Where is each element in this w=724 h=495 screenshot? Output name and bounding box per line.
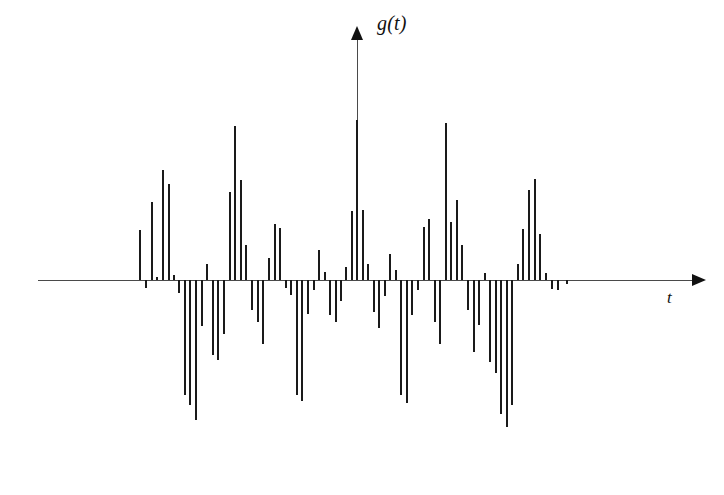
stem-26 [285, 280, 286, 288]
stem-0 [139, 230, 141, 280]
stem-34 [329, 280, 331, 315]
stem-30 [307, 280, 309, 314]
stem-52 [428, 219, 430, 280]
stem-series [0, 0, 724, 495]
stem-8 [184, 280, 186, 395]
stem-17 [234, 126, 236, 280]
stem-39 [356, 120, 358, 280]
stem-71 [534, 179, 536, 280]
stem-72 [539, 234, 541, 280]
stem-53 [434, 280, 436, 322]
stem-47 [400, 280, 402, 395]
stem-61 [478, 280, 480, 325]
stem-23 [268, 258, 270, 280]
stem-7 [178, 280, 180, 293]
stem-3 [156, 277, 157, 280]
stem-10 [195, 280, 197, 420]
stem-55 [445, 123, 447, 280]
stem-64 [495, 280, 497, 373]
stem-27 [290, 280, 292, 295]
stem-75 [557, 280, 559, 290]
stem-54 [439, 280, 441, 344]
stem-21 [257, 280, 259, 322]
stem-37 [345, 267, 346, 280]
stem-68 [517, 264, 519, 280]
stem-76 [566, 280, 569, 284]
stem-50 [417, 280, 419, 290]
stem-13 [212, 280, 214, 355]
stem-32 [318, 250, 320, 280]
stem-28 [296, 280, 298, 395]
stem-69 [522, 229, 524, 280]
stem-57 [456, 200, 458, 280]
stem-14 [217, 280, 219, 360]
stem-44 [384, 280, 386, 296]
stem-42 [373, 280, 375, 312]
stem-41 [367, 264, 369, 280]
stem-1 [145, 280, 147, 288]
stem-36 [340, 280, 342, 301]
stem-49 [411, 280, 413, 315]
stem-63 [489, 280, 491, 362]
stem-66 [506, 280, 508, 427]
stem-35 [335, 280, 337, 322]
stem-46 [395, 270, 396, 280]
stem-33 [324, 272, 325, 280]
stem-plot-figure: t g(t) [0, 0, 724, 495]
stem-65 [500, 280, 502, 414]
stem-40 [362, 210, 365, 280]
stem-9 [189, 280, 191, 405]
stem-6 [173, 275, 174, 280]
stem-15 [223, 280, 225, 334]
stem-11 [201, 280, 203, 326]
stem-62 [484, 273, 486, 280]
stem-25 [279, 228, 281, 280]
stem-29 [301, 280, 303, 401]
stem-19 [245, 245, 247, 280]
stem-45 [389, 254, 391, 280]
stem-22 [262, 280, 264, 344]
stem-12 [206, 264, 208, 280]
stem-48 [406, 280, 408, 403]
stem-67 [511, 280, 513, 405]
stem-18 [240, 180, 242, 280]
stem-59 [467, 280, 469, 310]
stem-24 [274, 224, 276, 280]
stem-31 [313, 280, 315, 290]
stem-60 [473, 280, 475, 352]
stem-2 [151, 202, 153, 280]
stem-70 [528, 190, 530, 280]
stem-51 [423, 227, 425, 280]
stem-73 [545, 273, 546, 280]
stem-16 [229, 192, 231, 280]
stem-4 [162, 170, 164, 280]
stem-58 [461, 245, 463, 280]
stem-56 [450, 222, 452, 280]
stem-20 [251, 280, 253, 310]
stem-38 [351, 211, 354, 280]
stem-5 [168, 184, 170, 280]
stem-43 [378, 280, 380, 328]
stem-74 [551, 280, 553, 289]
